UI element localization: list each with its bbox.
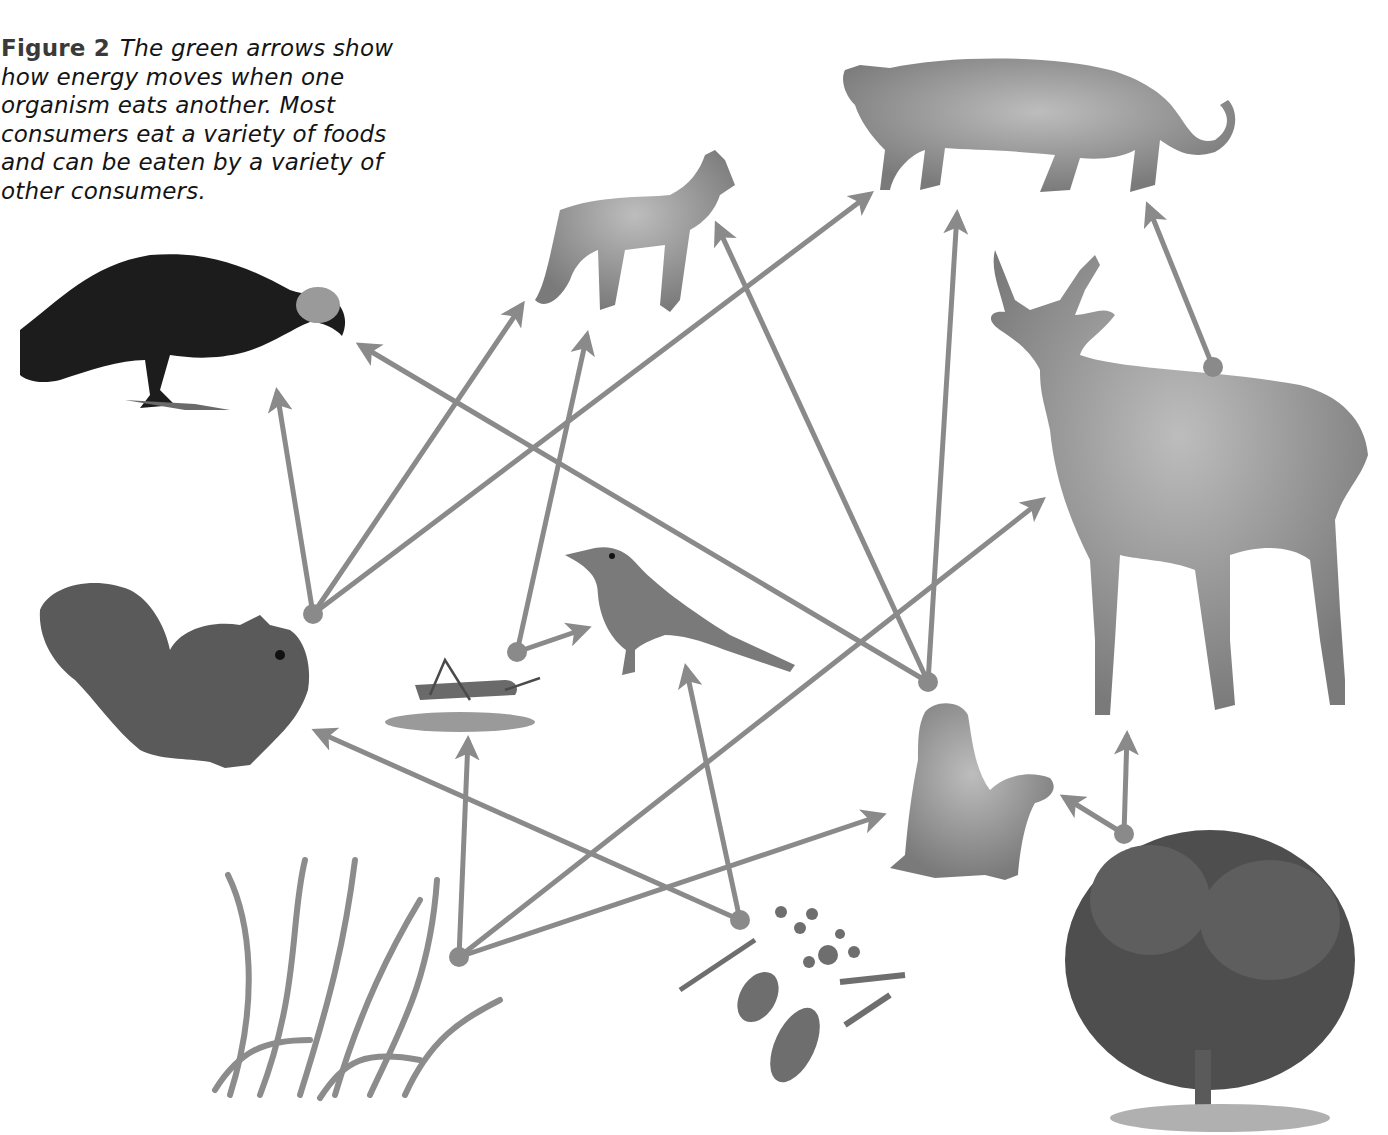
arrow-shrub-to-prairie-dog: [1064, 797, 1124, 834]
arrow-seeds-to-bird: [686, 668, 740, 920]
bird-illustration: [565, 547, 795, 675]
origin-dot-grasshopper: [507, 642, 527, 662]
prairie-dog-illustration: [890, 703, 1054, 880]
origin-dot-deer: [1203, 357, 1223, 377]
arrow-prairie-dog-to-mountain-lion: [928, 214, 957, 682]
arrow-squirrel-to-fox: [313, 305, 522, 614]
origin-dot-shrub: [1114, 824, 1134, 844]
arrow-shrub-to-deer: [1124, 735, 1127, 834]
arrow-deer-to-mountain-lion: [1148, 206, 1213, 367]
arrow-grass-to-grasshopper: [459, 740, 468, 957]
origin-dot-seeds: [730, 910, 750, 930]
arrow-grasshopper-to-bird: [517, 628, 587, 652]
mountain-lion-illustration: [843, 58, 1235, 192]
grasshopper-illustration: [385, 660, 540, 732]
food-web-diagram: [0, 0, 1388, 1135]
arrow-squirrel-to-vulture: [277, 392, 313, 614]
vulture-illustration: [20, 254, 345, 410]
origin-dot-squirrel: [303, 604, 323, 624]
origin-dot-grass: [449, 947, 469, 967]
arrow-grass-to-prairie-dog: [459, 815, 882, 957]
arrow-grasshopper-to-fox: [517, 335, 587, 652]
shrub-illustration: [1065, 830, 1355, 1132]
fox-illustration: [535, 150, 735, 312]
arrow-seeds-to-squirrel: [316, 731, 740, 920]
origin-dot-prairie-dog: [918, 672, 938, 692]
deer-illustration: [991, 250, 1368, 715]
squirrel-illustration: [40, 583, 309, 768]
seeds-illustration: [680, 906, 905, 1090]
grass-illustration: [215, 860, 500, 1098]
